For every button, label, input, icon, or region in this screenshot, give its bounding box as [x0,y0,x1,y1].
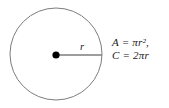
area-formula: A = πr², [112,36,169,49]
circle-figure: r A = πr², C = 2πr [0,0,169,108]
circumference-formula: C = 2πr [112,49,169,62]
formula-block: A = πr², C = 2πr [112,36,169,61]
radius-label: r [80,42,84,53]
center-dot [52,51,59,58]
